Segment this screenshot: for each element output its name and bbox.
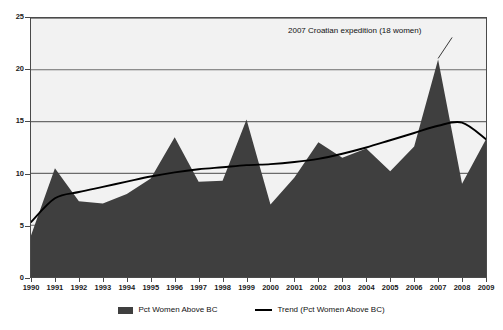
x-tick-mark <box>175 278 176 282</box>
x-tick-label: 2006 <box>406 284 423 292</box>
legend-label: Trend (Pct Women Above BC) <box>277 306 384 314</box>
x-tick-mark <box>486 278 487 282</box>
x-axis: 1990199119921993199419951996199719981999… <box>30 278 487 300</box>
x-tick-label: 1994 <box>118 284 135 292</box>
x-tick-label: 2002 <box>310 284 327 292</box>
x-tick-label: 1999 <box>238 284 255 292</box>
x-tick-label: 1995 <box>142 284 159 292</box>
x-tick-mark <box>247 278 248 282</box>
x-tick-mark <box>151 278 152 282</box>
x-tick-mark <box>31 278 32 282</box>
x-tick-mark <box>366 278 367 282</box>
x-tick-mark <box>199 278 200 282</box>
x-tick-mark <box>294 278 295 282</box>
x-tick-label: 2001 <box>286 284 303 292</box>
x-tick-mark <box>414 278 415 282</box>
y-tick-label: 10 <box>16 170 24 178</box>
x-tick-mark <box>103 278 104 282</box>
x-tick-label: 2004 <box>358 284 375 292</box>
y-tick-label: 25 <box>16 13 24 21</box>
x-tick-label: 2007 <box>430 284 447 292</box>
annotation-leader-line <box>438 37 452 58</box>
legend-item-trend: Trend (Pct Women Above BC) <box>255 306 384 314</box>
x-tick-label: 2008 <box>454 284 471 292</box>
x-tick-label: 1996 <box>166 284 183 292</box>
x-tick-mark <box>127 278 128 282</box>
legend-area-swatch-icon <box>118 307 133 314</box>
x-tick-mark <box>223 278 224 282</box>
x-tick-label: 1998 <box>214 284 231 292</box>
y-tick-label: 0 <box>20 274 24 282</box>
plot-area <box>30 17 487 278</box>
x-tick-label: 2000 <box>262 284 279 292</box>
x-tick-label: 1997 <box>190 284 207 292</box>
x-tick-mark <box>390 278 391 282</box>
legend-label: Pct Women Above BC <box>138 306 217 314</box>
x-tick-mark <box>438 278 439 282</box>
x-tick-label: 1993 <box>94 284 111 292</box>
series-area-pct-women-above-bc <box>31 59 486 277</box>
legend-line-swatch-icon <box>255 309 272 311</box>
y-tick-label: 15 <box>16 118 24 126</box>
x-tick-label: 1990 <box>23 284 40 292</box>
x-tick-label: 2005 <box>382 284 399 292</box>
chart-legend: Pct Women Above BC Trend (Pct Women Abov… <box>0 306 503 314</box>
x-tick-label: 2009 <box>478 284 495 292</box>
x-tick-label: 2003 <box>334 284 351 292</box>
x-tick-label: 1992 <box>71 284 88 292</box>
x-tick-label: 1991 <box>47 284 64 292</box>
x-tick-mark <box>79 278 80 282</box>
legend-item-pct-women-above-bc: Pct Women Above BC <box>118 306 217 314</box>
area-chart: 25 20 15 10 5 0 2007 Croatian expedition… <box>0 0 503 330</box>
plot-canvas <box>31 18 486 277</box>
x-tick-mark <box>270 278 271 282</box>
x-tick-mark <box>318 278 319 282</box>
y-tick-label: 5 <box>20 222 24 230</box>
x-tick-mark <box>55 278 56 282</box>
y-tick-label: 20 <box>16 65 24 73</box>
x-tick-mark <box>462 278 463 282</box>
x-tick-mark <box>342 278 343 282</box>
y-axis: 25 20 15 10 5 0 <box>0 0 30 296</box>
annotation-croatian-expedition: 2007 Croatian expedition (18 women) <box>288 27 421 35</box>
